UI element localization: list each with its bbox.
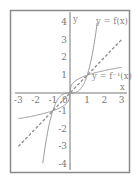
y-tick-label: 2 [61, 52, 67, 62]
y-tick-label: -2 [58, 124, 67, 134]
y-tick-label: -3 [58, 141, 67, 151]
x-tick-label: -2 [31, 95, 40, 105]
chart: -3-2-11234321-1-2-3-4 y x y = f(x) y = f… [0, 0, 138, 181]
y-tick-label: 3 [61, 35, 67, 45]
y-axis-label: y [72, 14, 78, 24]
label-f: y = f(x) [95, 16, 128, 26]
y-tick-label: 1 [61, 70, 67, 80]
x-tick-label: 2 [102, 95, 108, 105]
x-tick-label: -1 [48, 95, 57, 105]
label-f-inverse: y = f⁻¹(x) [91, 71, 132, 81]
y-tick-label: -1 [58, 106, 67, 116]
x-axis-label: x [120, 82, 125, 92]
x-tick-label: 3 [119, 95, 125, 105]
y-tick-label: 4 [61, 17, 67, 27]
x-tick-label: 1 [84, 95, 90, 105]
x-tick-label: -3 [14, 95, 23, 105]
origin-label: 0 [62, 95, 68, 105]
y-tick-label: -4 [58, 159, 67, 169]
